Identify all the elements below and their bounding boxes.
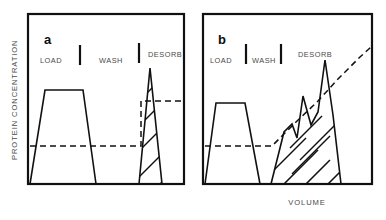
- panel-a: a LOAD WASH DESORB: [28, 14, 184, 220]
- panel-b-desorb-peak-cluster: [271, 60, 371, 184]
- panel-a-phase-label-desorb: DESORB: [148, 50, 182, 59]
- panel-a-eluent-step-curve: [30, 101, 183, 146]
- panel-a-phase-label-load: LOAD: [40, 56, 62, 65]
- panel-b-phase-label-desorb: DESORB: [298, 50, 332, 59]
- panel-b: b LOAD WASH DESORB: [203, 14, 372, 220]
- panel-b-phase-label-wash: WASH: [252, 56, 276, 65]
- panel-a-desorb-peak-hatching: [118, 70, 180, 220]
- panel-a-load-peak: [30, 90, 96, 184]
- panel-b-load-peak: [205, 103, 260, 184]
- panel-b-phase-label-load: LOAD: [210, 56, 232, 65]
- panel-b-letter: b: [218, 32, 226, 47]
- y-axis-label: PROTEIN CONCENTRATION: [10, 40, 19, 160]
- y-axis-label-group: PROTEIN CONCENTRATION: [10, 40, 19, 160]
- chromatography-figure: PROTEIN CONCENTRATION a LOAD WASH DESORB: [0, 0, 386, 220]
- panel-a-phase-label-wash: WASH: [99, 56, 123, 65]
- panel-a-frame: [28, 14, 184, 184]
- panel-a-desorb-peak: [139, 68, 183, 184]
- figure-canvas: PROTEIN CONCENTRATION a LOAD WASH DESORB: [0, 0, 386, 220]
- panel-a-letter: a: [44, 32, 52, 47]
- x-axis-label: VOLUME: [288, 198, 325, 207]
- panel-b-frame: [203, 14, 372, 184]
